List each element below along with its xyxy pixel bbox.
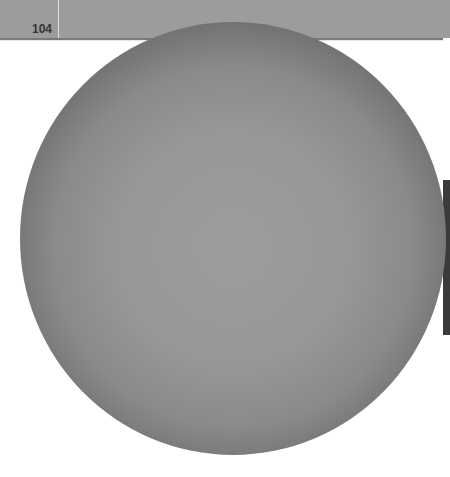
- page-number: 104: [0, 22, 52, 36]
- sphere-illustration: [20, 22, 446, 455]
- header-divider: [58, 0, 59, 38]
